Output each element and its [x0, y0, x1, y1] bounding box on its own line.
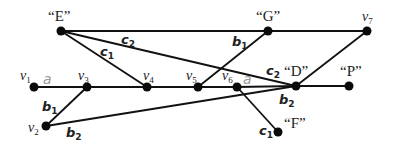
- edge-v6-F: [237, 87, 278, 132]
- node-D: [292, 82, 301, 91]
- edge-label-a: a: [243, 71, 252, 87]
- node-label-v2: v2: [28, 120, 39, 137]
- node-label-D: “D”: [284, 63, 308, 79]
- edge-E-D: [61, 31, 296, 86]
- node-label-P: “P”: [340, 63, 362, 79]
- edge-label-c1: c1: [259, 123, 273, 140]
- edge-label-b1: b1: [232, 34, 248, 51]
- node-label-F: “F”: [284, 115, 306, 131]
- node-label-v4: v4: [143, 68, 154, 85]
- node-P: [345, 82, 354, 91]
- node-label-E: “E”: [48, 8, 70, 24]
- edge-v2-D: [46, 86, 296, 126]
- node-label-v1: v1: [20, 68, 31, 85]
- node-label-v5: v5: [186, 68, 197, 85]
- node-v7: [363, 27, 372, 36]
- edge-label-b1: b1: [42, 99, 58, 116]
- node-label-v7: v7: [362, 9, 373, 26]
- edge-label-c2: c2: [121, 32, 135, 49]
- edge-label-b2: b2: [279, 92, 295, 109]
- edge-label-a: a: [43, 71, 52, 87]
- node-v1: [30, 83, 39, 92]
- edge-label-c1: c1: [100, 44, 114, 61]
- edge-label-b2: b2: [66, 125, 82, 142]
- edge-label-c2: c2: [266, 63, 280, 80]
- node-label-v3: v3: [78, 68, 89, 85]
- node-v6: [233, 83, 242, 92]
- node-G: [264, 27, 273, 36]
- node-v2: [42, 122, 51, 131]
- node-label-G: “G”: [256, 8, 280, 24]
- graph-diagram: “E”“G”v7v1v3v4v5v6“D”“P”v2“F”c2c1b1c2aab…: [0, 0, 393, 147]
- node-E: [57, 27, 66, 36]
- node-F: [274, 128, 283, 137]
